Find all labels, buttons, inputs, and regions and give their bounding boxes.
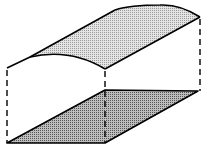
base-region	[7, 90, 198, 143]
solid-diagram	[0, 0, 207, 151]
top-surface	[30, 5, 200, 69]
